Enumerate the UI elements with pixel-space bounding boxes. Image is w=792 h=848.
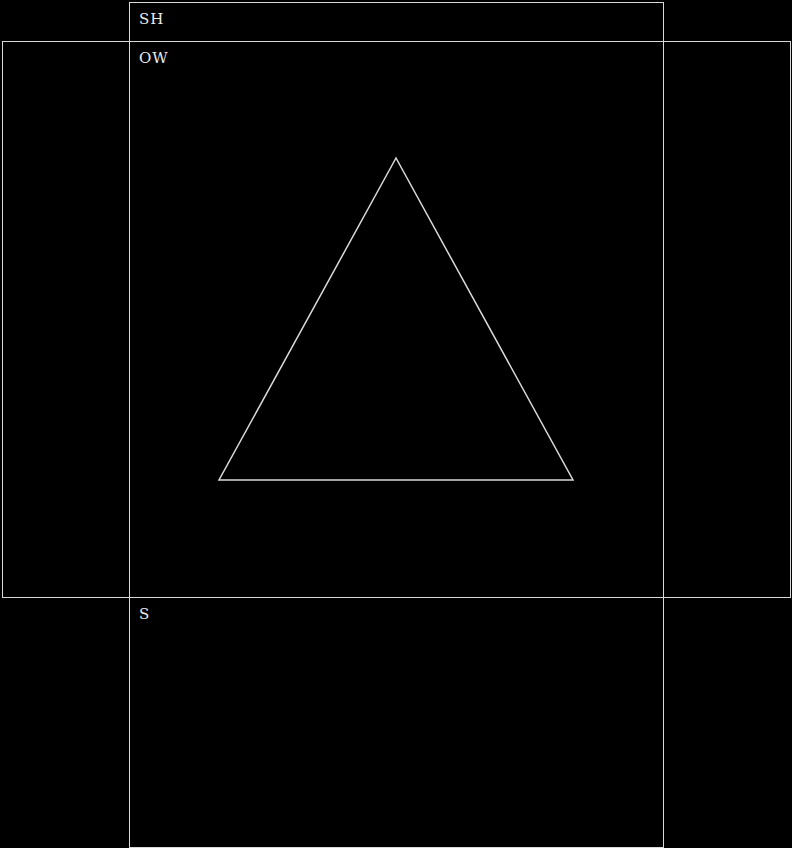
triangle-shape: [0, 0, 792, 848]
triangle-icon: [219, 158, 573, 480]
